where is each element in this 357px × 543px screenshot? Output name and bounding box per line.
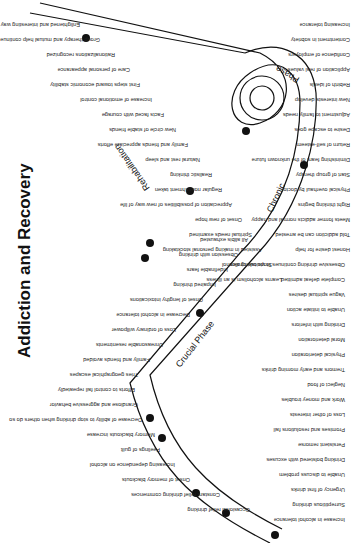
label: Regular nourishment taken <box>155 187 222 193</box>
label: Complete defeat admitted <box>281 277 345 283</box>
label: Onset of new hope <box>195 217 242 223</box>
label: Diminishing fears of the unknown future <box>252 157 350 163</box>
label: Efforts to control fail repeatedly <box>58 387 135 393</box>
label: Realistic thinking <box>170 172 212 178</box>
label: Onset of memory blackouts <box>122 477 190 483</box>
label: Increasing tolerance <box>300 22 350 28</box>
label: Feelings of guilt <box>120 447 160 453</box>
label: Grandiose and aggressive behavior <box>50 402 138 408</box>
phase-label-crucial: Crucial Phase <box>174 319 216 369</box>
label: Contentment in sobriety <box>291 37 350 43</box>
label: Increasing dependence on alcohol <box>90 462 175 468</box>
label: Decrease of ability to stop drinking whe… <box>9 417 142 423</box>
label: Meets former addicts normal and happy <box>251 217 350 223</box>
label: Return of self-esteem <box>296 142 350 148</box>
label: Enlightened and interesting way of life … <box>0 22 80 28</box>
label: Learns alcoholism is an illness <box>206 277 282 283</box>
label: Moral deterioration <box>298 337 345 343</box>
label: Constant relief drinking commences <box>131 492 220 498</box>
label: Onset of lengthy intoxications <box>130 297 203 303</box>
label: New interests develop <box>295 97 350 103</box>
label: Told addiction can be arrested <box>275 232 350 238</box>
diagram-stage: Addiction and Recovery Crucial Phase Chr… <box>0 0 357 543</box>
label: Rebirth of ideals <box>309 82 350 88</box>
label: Memory blackouts increase <box>87 432 155 438</box>
label: Loss of other interests <box>290 412 345 418</box>
label: Decrease in alcohol tolerance <box>116 312 190 318</box>
label: Unable to initiate action <box>287 307 345 313</box>
label: Surreptitious drinking <box>292 502 345 508</box>
label: Right thinking begins <box>298 202 350 208</box>
label: Neglect of food <box>307 382 345 388</box>
label: Tremors and early morning drinks <box>261 367 345 373</box>
descent-labels-below: Increase in alcohol tolerance Surreptiti… <box>230 262 345 523</box>
label: Unreasonable resentments <box>96 342 163 348</box>
label: Occasional relief drinking <box>188 507 251 513</box>
label: Desire to escape goes <box>294 127 350 133</box>
label: Persistent remorse <box>298 442 345 448</box>
label: Unable to discuss problem <box>279 472 345 478</box>
label: Confidence of employers <box>288 52 350 58</box>
diagram-title: Addiction and Recovery <box>15 163 34 358</box>
label: New circle of stable friends <box>109 127 176 133</box>
label: Work and money troubles <box>281 397 345 403</box>
label: Urgency of first drinks <box>291 487 345 493</box>
label: Honest desire for help <box>295 247 350 253</box>
label: Facts faced with courage <box>102 112 164 118</box>
label: Loss of ordinary willpower <box>112 327 176 333</box>
phase-label-chronic: Chronic <box>265 181 287 214</box>
label: Indefinable fears <box>186 267 228 273</box>
label: Appreciation of possibilities of new way… <box>120 202 232 208</box>
label: Drinking bolstered with excuses <box>266 457 345 463</box>
label: Drinking with inferiors <box>291 322 345 328</box>
label: Spiritual needs examined <box>189 232 252 238</box>
label: Increase of emotional control <box>80 97 152 103</box>
phase-label-phase: Phase <box>274 64 301 85</box>
label: Family and friends appreciate efforts <box>97 142 188 148</box>
phase-label-rehabilitation: Rehabilitation <box>112 142 151 192</box>
label: Tries geographical escapes <box>70 372 138 378</box>
addiction-recovery-curve-diagram: Addiction and Recovery Crucial Phase Chr… <box>0 0 357 543</box>
label: Physical deterioration <box>292 352 345 358</box>
label: Care of personal appearance <box>58 67 130 73</box>
label: Physical overhaul by doctor <box>281 187 350 193</box>
label: Adjustment to family needs <box>283 112 350 118</box>
vicious-circle-inner <box>250 86 274 110</box>
label: Promises and resolutions fail <box>273 427 345 433</box>
label: Group therapy and mutual help continue <box>0 37 100 43</box>
label: Stops taking alcohol <box>222 262 272 268</box>
label: Natural rest and sleep <box>145 157 200 163</box>
label: Rationalizations recognized <box>47 52 115 58</box>
label: First steps toward economic stability <box>50 82 140 88</box>
label: Application of real values <box>288 67 350 73</box>
label: Vague spiritual desires <box>289 292 345 298</box>
label: Assisted in making personal stocktaking <box>163 247 262 253</box>
curve-track-inner <box>30 13 316 529</box>
label: Increase in alcohol tolerance <box>274 517 345 523</box>
label: Start of group therapy <box>296 172 350 178</box>
vicious-circle-outer <box>240 76 284 120</box>
label: Family and friends avoided <box>83 357 150 363</box>
